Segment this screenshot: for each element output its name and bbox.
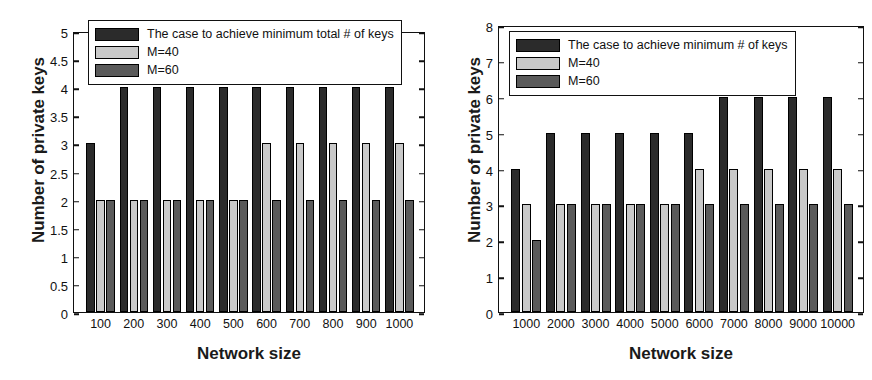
bar — [684, 133, 693, 312]
legend-label: The case to achieve minimum # of keys — [568, 39, 788, 52]
y-tick-label: 1 — [61, 250, 68, 265]
y-tick-label: 0 — [61, 307, 68, 322]
bar — [615, 133, 624, 312]
bar — [239, 200, 248, 312]
x-tick-label: 8000 — [755, 317, 783, 331]
x-tick-label: 600 — [256, 317, 277, 331]
y-tick-mark — [499, 98, 504, 100]
legend-swatch-series-3-icon — [516, 75, 560, 88]
bar — [296, 143, 305, 312]
bar — [405, 200, 414, 312]
bar — [173, 200, 182, 312]
legend-right: The case to achieve minimum # of keys M=… — [509, 31, 796, 96]
x-tick-label: 800 — [323, 317, 344, 331]
x-tick-label: 1000 — [385, 317, 413, 331]
x-tick-label: 10000 — [820, 317, 855, 331]
bar — [106, 200, 115, 312]
bar — [286, 87, 295, 312]
y-tick-label: 8 — [486, 20, 493, 35]
legend-swatch-series-2-icon — [95, 46, 139, 59]
bar — [695, 169, 704, 313]
legend-swatch-series-2-icon — [516, 57, 560, 70]
y-tick-mark — [858, 242, 863, 244]
bar — [522, 204, 531, 312]
y-tick-mark — [74, 313, 79, 315]
y-tick-label: 2 — [486, 235, 493, 250]
y-tick-mark — [419, 32, 424, 34]
legend-label: M=60 — [147, 64, 179, 77]
bar — [705, 204, 714, 312]
bar — [833, 169, 842, 313]
x-axis-label-left: Network size — [73, 344, 425, 364]
bar — [532, 240, 541, 312]
bar — [319, 87, 328, 312]
bar — [140, 200, 149, 312]
y-tick-mark — [74, 173, 79, 175]
bar — [823, 97, 832, 312]
bar — [385, 87, 394, 312]
y-tick-mark — [499, 170, 504, 172]
y-tick-label: 2 — [61, 194, 68, 209]
x-tick-label: 5000 — [651, 317, 679, 331]
legend-label: The case to achieve minimum total # of k… — [147, 28, 394, 41]
y-tick-label: 5 — [486, 127, 493, 142]
bar — [567, 204, 576, 312]
bar — [602, 204, 611, 312]
y-tick-mark — [858, 313, 863, 315]
x-tick-label: 3000 — [582, 317, 610, 331]
bar — [650, 133, 659, 312]
x-tick-label: 200 — [123, 317, 144, 331]
legend-item: M=40 — [95, 44, 394, 61]
bar — [163, 200, 172, 312]
y-tick-label: 0.5 — [50, 278, 68, 293]
y-tick-mark — [74, 257, 79, 259]
bar — [511, 169, 520, 313]
x-axis-label-right: Network size — [498, 344, 864, 364]
legend-swatch-series-1-icon — [516, 39, 560, 52]
bar — [581, 133, 590, 312]
bar — [546, 133, 555, 312]
legend-item: M=60 — [516, 73, 788, 90]
bar — [339, 200, 348, 312]
legend-swatch-series-3-icon — [95, 64, 139, 77]
bar — [591, 204, 600, 312]
y-tick-mark — [74, 145, 79, 147]
y-tick-mark — [419, 145, 424, 147]
x-tick-label: 100 — [90, 317, 111, 331]
legend-item: The case to achieve minimum total # of k… — [95, 26, 394, 43]
y-tick-label: 3 — [486, 199, 493, 214]
x-tick-label: 900 — [356, 317, 377, 331]
y-tick-mark — [419, 117, 424, 119]
legend-label: M=60 — [568, 75, 600, 88]
y-tick-mark — [499, 242, 504, 244]
bar — [96, 200, 105, 312]
y-tick-label: 1.5 — [50, 222, 68, 237]
y-tick-mark — [858, 62, 863, 64]
bar — [196, 200, 205, 312]
chart-panel-left: Number of private keys 00.511.522.533.54… — [0, 0, 436, 380]
y-tick-label: 3.5 — [50, 110, 68, 125]
y-tick-mark — [74, 285, 79, 287]
bar — [229, 200, 238, 312]
y-tick-mark — [419, 88, 424, 90]
x-tick-label: 300 — [157, 317, 178, 331]
y-tick-mark — [858, 206, 863, 208]
bar — [636, 204, 645, 312]
y-tick-label: 3 — [61, 138, 68, 153]
y-tick-mark — [74, 88, 79, 90]
legend-item: M=60 — [95, 62, 394, 79]
y-tick-mark — [858, 170, 863, 172]
bar — [775, 204, 784, 312]
x-tick-label: 2000 — [547, 317, 575, 331]
bar — [262, 143, 271, 312]
y-tick-mark — [419, 173, 424, 175]
y-tick-label: 6 — [486, 91, 493, 106]
y-tick-mark — [499, 206, 504, 208]
bar — [219, 87, 228, 312]
y-tick-mark — [499, 62, 504, 64]
y-tick-mark — [499, 134, 504, 136]
bar — [372, 200, 381, 312]
y-tick-mark — [74, 117, 79, 119]
bar — [809, 204, 818, 312]
bar — [740, 204, 749, 312]
